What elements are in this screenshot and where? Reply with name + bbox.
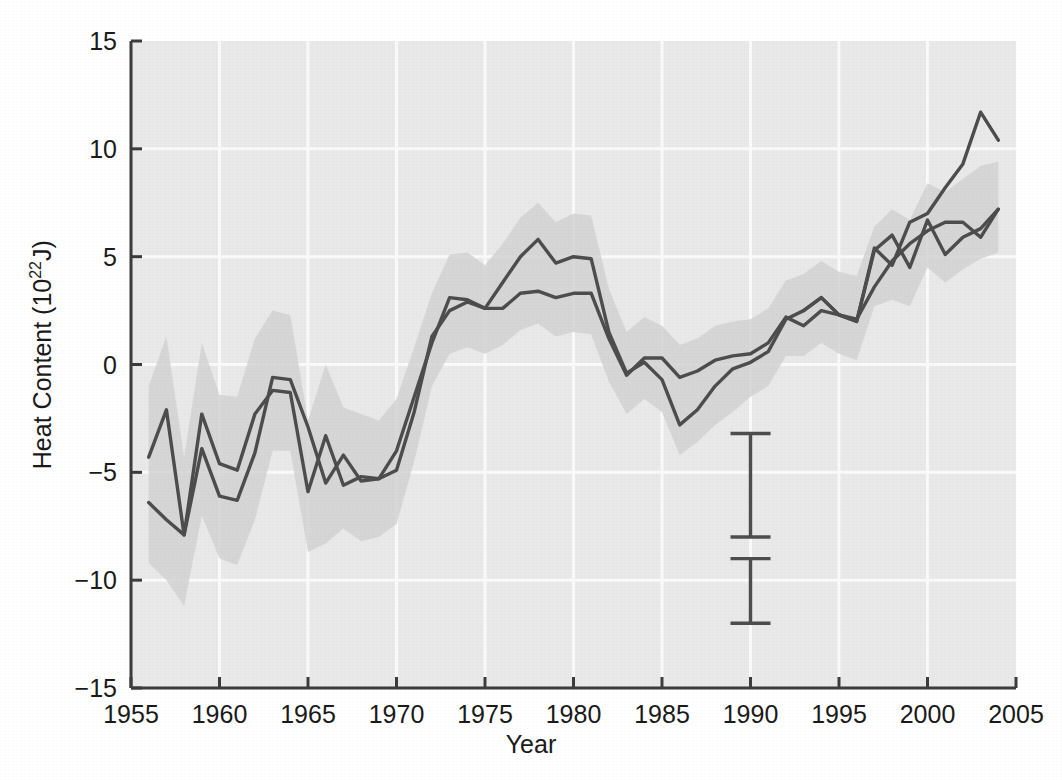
x-tick-label: 1970	[369, 700, 425, 729]
y-tick-label: 5	[103, 242, 117, 271]
x-tick-label: 2005	[988, 700, 1044, 729]
x-tick-label: 1990	[723, 700, 779, 729]
x-tick-label: 1965	[280, 700, 336, 729]
x-tick-label: 1980	[546, 700, 602, 729]
y-tick-label: −15	[75, 674, 117, 703]
x-tick-label: 1975	[457, 700, 513, 729]
x-tick-label: 1955	[103, 700, 159, 729]
x-tick-label: 1995	[811, 700, 867, 729]
x-tick-label: 2000	[900, 700, 956, 729]
x-tick-label: 1985	[634, 700, 690, 729]
y-tick-label: 10	[89, 134, 117, 163]
y-tick-label: 15	[89, 27, 117, 56]
y-tick-label: −10	[75, 566, 117, 595]
y-tick-label: 0	[103, 350, 117, 379]
y-tick-label: −5	[88, 458, 117, 487]
figure-container: Heat Content (1022J) Year 19551960196519…	[0, 0, 1062, 780]
chart-plot	[0, 0, 1062, 780]
x-tick-label: 1960	[192, 700, 248, 729]
